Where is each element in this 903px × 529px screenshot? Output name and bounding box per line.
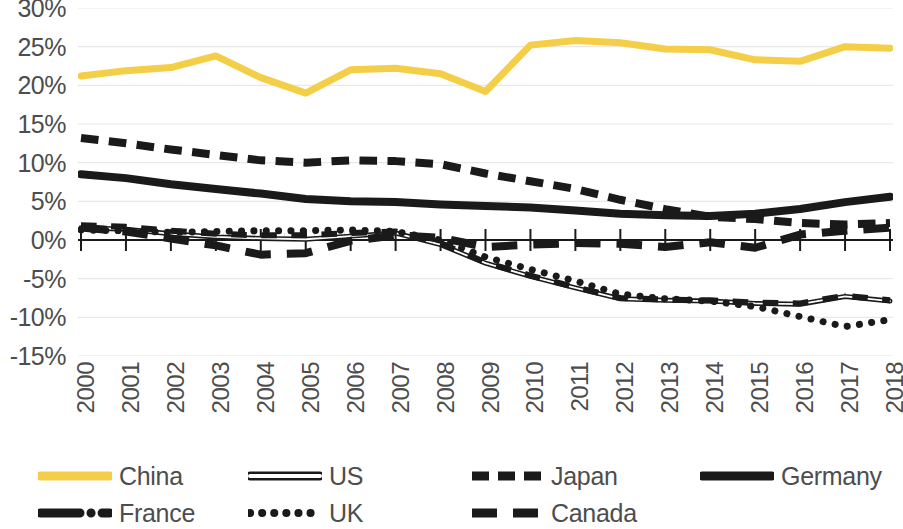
legend-swatch-canada bbox=[470, 506, 544, 520]
x-axis-tick-label: 2007 bbox=[387, 362, 415, 413]
legend-label: UK bbox=[329, 499, 363, 528]
legend-swatch-uk bbox=[248, 506, 322, 520]
legend-swatch-line bbox=[470, 469, 544, 483]
legend-label: France bbox=[119, 499, 195, 528]
legend-item-us[interactable]: US bbox=[248, 460, 363, 492]
legend-swatch-line bbox=[38, 506, 112, 520]
x-axis-tick-label: 2012 bbox=[611, 362, 639, 413]
legend-item-germany[interactable]: Germany bbox=[700, 460, 882, 492]
plot-svg bbox=[78, 8, 893, 356]
legend-item-france[interactable]: France bbox=[38, 497, 195, 529]
plot-area bbox=[78, 8, 893, 356]
legend-item-japan[interactable]: Japan bbox=[470, 460, 618, 492]
x-axis-tick-label: 2018 bbox=[881, 362, 903, 413]
y-axis-tick-label: 5% bbox=[31, 187, 66, 216]
x-axis: 2000200120022003200420052006200720082009… bbox=[78, 360, 893, 452]
legend-label: US bbox=[329, 462, 363, 491]
x-axis-tick-label: 2016 bbox=[791, 362, 819, 413]
x-axis-tick-label: 2010 bbox=[521, 362, 549, 413]
legend-swatch-line bbox=[700, 469, 774, 483]
y-axis-tick-label: 15% bbox=[17, 110, 66, 139]
y-axis: 30%25%20%15%10%5%0%-5%-10%-15% bbox=[0, 0, 74, 360]
legend-swatch-line bbox=[248, 506, 322, 520]
x-axis-tick-label: 2009 bbox=[477, 362, 505, 413]
x-axis-tick-label: 2008 bbox=[432, 362, 460, 413]
y-axis-tick-label: 25% bbox=[17, 32, 66, 61]
legend-swatch-us bbox=[248, 469, 322, 483]
legend-label: Canada bbox=[551, 499, 637, 528]
x-axis-tick-label: 2000 bbox=[72, 362, 100, 413]
legend-swatch-line bbox=[38, 469, 112, 483]
x-axis-tick-label: 2005 bbox=[297, 362, 325, 413]
y-axis-tick-label: 10% bbox=[17, 148, 66, 177]
x-axis-tick-label: 2011 bbox=[566, 362, 594, 412]
x-axis-tick-label: 2004 bbox=[252, 362, 280, 413]
legend-item-china[interactable]: China bbox=[38, 460, 183, 492]
y-axis-tick-label: -10% bbox=[10, 303, 66, 332]
legend-swatch-line bbox=[248, 469, 322, 483]
x-axis-tick-label: 2003 bbox=[207, 362, 235, 413]
chart-legend: ChinaUSJapanGermanyFranceUKCanada bbox=[0, 452, 903, 529]
series-line-germany bbox=[81, 174, 890, 216]
legend-swatch-germany bbox=[700, 469, 774, 483]
legend-item-canada[interactable]: Canada bbox=[470, 497, 637, 529]
x-axis-tick-label: 2014 bbox=[701, 362, 729, 413]
x-axis-tick-label: 2015 bbox=[746, 362, 774, 413]
y-axis-tick-label: -5% bbox=[23, 264, 66, 293]
legend-label: China bbox=[119, 462, 183, 491]
y-axis-tick-label: -15% bbox=[10, 342, 66, 371]
x-axis-tick-label: 2017 bbox=[836, 362, 864, 413]
y-axis-tick-label: 0% bbox=[31, 226, 66, 255]
y-axis-tick-label: 20% bbox=[17, 71, 66, 100]
x-axis-tick-label: 2001 bbox=[117, 362, 145, 413]
legend-swatch-china bbox=[38, 469, 112, 483]
legend-item-uk[interactable]: UK bbox=[248, 497, 363, 529]
chart-container: 30%25%20%15%10%5%0%-5%-10%-15% 200020012… bbox=[0, 0, 903, 529]
x-axis-tick-label: 2002 bbox=[162, 362, 190, 413]
legend-swatch-line bbox=[470, 506, 544, 520]
x-axis-tick-label: 2013 bbox=[656, 362, 684, 413]
legend-swatch-france bbox=[38, 506, 112, 520]
legend-swatch-japan bbox=[470, 469, 544, 483]
y-axis-tick-label: 30% bbox=[17, 0, 66, 23]
x-axis-tick-label: 2006 bbox=[342, 362, 370, 413]
legend-label: Japan bbox=[551, 462, 618, 491]
legend-label: Germany bbox=[781, 462, 882, 491]
